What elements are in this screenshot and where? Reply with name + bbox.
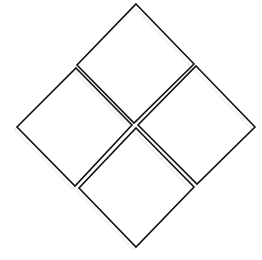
diagram-canvas — [0, 0, 262, 260]
diamond-shapes — [17, 4, 255, 247]
diamond-diagram — [0, 0, 262, 260]
